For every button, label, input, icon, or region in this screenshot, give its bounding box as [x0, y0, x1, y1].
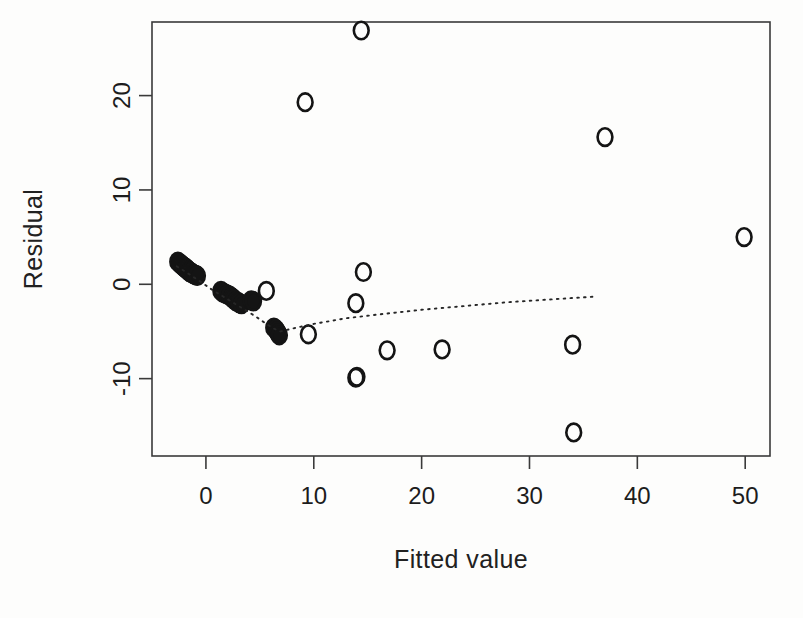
- x-tick-label: 30: [516, 482, 543, 509]
- plot-canvas: 01020304050 -1001020 Fitted value Residu…: [0, 0, 803, 618]
- data-point: [301, 325, 316, 343]
- x-tick-label: 40: [624, 482, 651, 509]
- y-axis-title: Residual: [19, 189, 47, 289]
- data-point: [354, 22, 369, 40]
- data-point: [380, 342, 395, 360]
- data-points-layer: [170, 22, 751, 442]
- x-tick-label: 0: [199, 482, 212, 509]
- x-tick-label: 50: [732, 482, 759, 509]
- data-point: [298, 93, 313, 111]
- data-point: [259, 282, 274, 300]
- y-tick-label: 0: [109, 278, 136, 291]
- data-point: [566, 424, 581, 442]
- x-tick-label: 10: [300, 482, 327, 509]
- data-point: [565, 336, 580, 354]
- data-point: [356, 263, 371, 281]
- data-point: [190, 267, 205, 285]
- plot-frame: [152, 22, 770, 456]
- y-tick-label: -10: [109, 361, 136, 396]
- data-point: [348, 294, 363, 312]
- data-point: [737, 228, 752, 246]
- x-axis-ticks: 01020304050: [199, 456, 758, 509]
- residual-plot-figure: 01020304050 -1001020 Fitted value Residu…: [0, 0, 803, 618]
- y-tick-label: 10: [109, 177, 136, 204]
- data-point: [598, 128, 613, 146]
- x-axis-title: Fitted value: [394, 545, 528, 573]
- y-tick-label: 20: [109, 82, 136, 109]
- data-point: [435, 341, 450, 359]
- x-tick-label: 20: [408, 482, 435, 509]
- y-axis-ticks: -1001020: [109, 82, 153, 396]
